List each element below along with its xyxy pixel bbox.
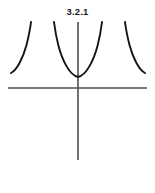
curve-branch-left-outer xyxy=(11,22,31,73)
math-figure: 3.2.1 xyxy=(0,0,155,193)
curve-branch-right-outer xyxy=(125,22,145,73)
axes-group xyxy=(8,22,147,160)
plot-canvas xyxy=(0,0,155,193)
